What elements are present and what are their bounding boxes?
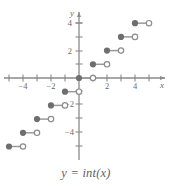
closed-endpoint-y4 — [132, 20, 138, 26]
x-tick-label--2: −2 — [46, 81, 55, 91]
y-tick-label--4: −4 — [65, 127, 75, 137]
axes-group — [4, 12, 165, 160]
open-endpoint-y1 — [104, 62, 109, 67]
x-tick-label-4: 4 — [133, 81, 138, 91]
closed-endpoint-y-3 — [34, 116, 40, 122]
open-endpoint-y-1 — [76, 89, 81, 94]
open-endpoint-y2 — [118, 48, 123, 53]
open-endpoint-y-3 — [48, 116, 53, 121]
open-endpoint-y0 — [90, 75, 95, 80]
function-plot: −4 −2 2 4 4 2 −2 −4 x y — [0, 0, 172, 165]
step-function-figure: −4 −2 2 4 4 2 −2 −4 x y y = int(x) — [0, 0, 172, 190]
closed-endpoint-y-5 — [6, 143, 12, 149]
closed-endpoint-y-2 — [48, 102, 54, 108]
open-endpoint-y3 — [132, 34, 137, 39]
closed-endpoint-y-4 — [20, 130, 26, 136]
closed-endpoint-y0 — [76, 75, 82, 81]
x-tick-label--4: −4 — [18, 81, 28, 91]
x-tick-label-2: 2 — [105, 81, 109, 91]
y-tick-label-2: 2 — [68, 46, 72, 56]
open-endpoint-y-2 — [62, 103, 67, 108]
y-axis-arrow — [77, 12, 81, 17]
closed-endpoint-y2 — [104, 48, 110, 54]
y-axis-label: y — [69, 8, 74, 18]
x-axis-label: x — [159, 80, 164, 90]
closed-endpoint-y-1 — [62, 89, 68, 95]
open-endpoint-y4 — [146, 21, 151, 26]
closed-endpoint-y3 — [118, 34, 124, 40]
y-tick-label-4: 4 — [68, 18, 73, 28]
open-endpoint-y-5 — [20, 144, 25, 149]
closed-endpoint-y1 — [90, 61, 96, 67]
open-endpoint-y-4 — [34, 130, 39, 135]
figure-caption: y = int(x) — [0, 166, 172, 181]
